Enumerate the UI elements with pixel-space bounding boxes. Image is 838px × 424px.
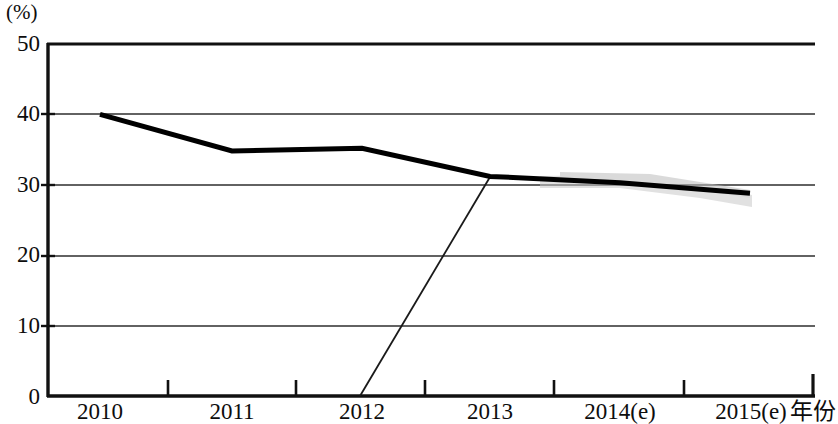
scan-artifact-diagonal-line <box>360 177 490 396</box>
axis-frame <box>47 43 815 397</box>
chart-container: (%) 50 40 30 20 10 0 2010 2011 2012 2013… <box>0 0 838 424</box>
gridlines <box>47 114 815 326</box>
x-axis-ticks <box>168 380 684 396</box>
plot-area-svg <box>0 0 838 424</box>
